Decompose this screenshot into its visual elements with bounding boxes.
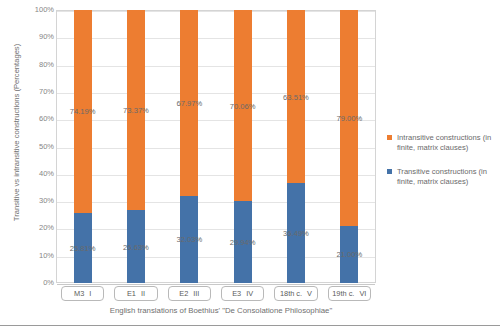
bar-value-label-intransitive: 67.97% xyxy=(176,99,202,108)
x-axis-category-4: E3IV xyxy=(221,286,264,301)
y-axis-tick-label: 40% xyxy=(20,170,54,178)
y-axis-tick-label: 100% xyxy=(20,6,54,14)
bar-value-label-intransitive: 73.37% xyxy=(123,106,149,115)
bar-value-label-transitive: 29.94% xyxy=(230,238,256,247)
legend-entry-1: Intransitive constructions (in finite, m… xyxy=(387,133,497,153)
bar-value-label-transitive: 25.81% xyxy=(70,244,96,253)
bars-layer: 74.19%25.81%73.37%26.63%67.97%32.03%70.0… xyxy=(56,10,376,283)
bottom-divider xyxy=(0,325,500,326)
y-axis-tick-label: 10% xyxy=(20,252,54,260)
stacked-bar-chart: Transitive vs intransitive constructions… xyxy=(0,0,500,330)
y-axis-tick-label: 80% xyxy=(20,61,54,69)
category-numeral: III xyxy=(193,289,199,298)
bar-value-label-transitive: 32.03% xyxy=(176,235,202,244)
legend-label: Transitive constructions (in finite, mat… xyxy=(397,167,497,187)
legend-label: Intransitive constructions (in finite, m… xyxy=(397,133,497,153)
legend-entry-2: Transitive constructions (in finite, mat… xyxy=(387,167,497,187)
bar-value-label-intransitive: 79.00% xyxy=(336,114,362,123)
category-numeral: IV xyxy=(246,289,253,298)
legend-swatch xyxy=(387,169,392,174)
y-axis-tick-label: 30% xyxy=(20,197,54,205)
x-axis-category-5: 18th c.V xyxy=(274,286,317,301)
x-axis-title: English translations of Boethius' "De Co… xyxy=(56,306,386,315)
category-name: M3 xyxy=(74,289,84,298)
chart-legend: Intransitive constructions (in finite, m… xyxy=(387,133,497,201)
x-axis-category-1: M3I xyxy=(61,286,104,301)
bar-value-label-transitive: 36.49% xyxy=(283,229,309,238)
x-axis-category-2: E1II xyxy=(114,286,157,301)
category-name: E1 xyxy=(127,289,136,298)
category-numeral: II xyxy=(141,289,145,298)
bar-group: 73.37%26.63% xyxy=(109,10,162,283)
bar-group: 63.51%36.49% xyxy=(269,10,322,283)
x-axis-category-6: 19th c.VI xyxy=(328,286,371,301)
category-numeral: VI xyxy=(359,289,366,298)
category-name: 18th c. xyxy=(280,289,302,298)
x-axis-categories: M3IE1IIE2IIIE3IV18th c.V19th c.VI xyxy=(56,286,376,303)
category-name: E3 xyxy=(232,289,241,298)
y-axis-tick-label: 70% xyxy=(20,88,54,96)
y-axis-tick-label: 0% xyxy=(20,279,54,287)
bar-group: 67.97%32.03% xyxy=(163,10,216,283)
bar-group: 70.06%29.94% xyxy=(216,10,269,283)
bar-group: 79.00%21.00% xyxy=(323,10,376,283)
bar-value-label-intransitive: 74.19% xyxy=(70,107,96,116)
category-name: 19th c. xyxy=(332,289,354,298)
bar-value-label-transitive: 26.63% xyxy=(123,243,149,252)
legend-swatch xyxy=(387,135,392,140)
y-axis-tick-label: 50% xyxy=(20,143,54,151)
bar-value-label-transitive: 21.00% xyxy=(336,250,362,259)
y-axis-tick-labels: 0%10%20%30%40%50%60%70%80%90%100% xyxy=(14,10,54,283)
x-axis-line xyxy=(57,284,375,285)
category-numeral: I xyxy=(89,289,91,298)
y-axis-tick-label: 60% xyxy=(20,115,54,123)
y-axis-tick-label: 20% xyxy=(20,224,54,232)
category-numeral: V xyxy=(307,289,312,298)
category-name: E2 xyxy=(179,289,188,298)
bar-group: 74.19%25.81% xyxy=(56,10,109,283)
y-axis-tick-label: 90% xyxy=(20,33,54,41)
x-axis-category-3: E2III xyxy=(168,286,211,301)
bar-value-label-intransitive: 70.06% xyxy=(230,102,256,111)
bar-value-label-intransitive: 63.51% xyxy=(283,93,309,102)
